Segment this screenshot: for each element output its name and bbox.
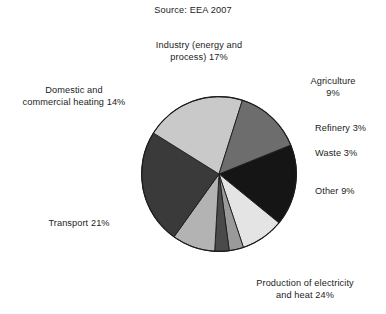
slice-label-production-of-electricity-and-heat: Production of electricity and heat 24%: [229, 278, 381, 301]
pie-chart-graphic: [141, 96, 297, 252]
slice-label-agriculture: Agriculture 9%: [288, 76, 378, 99]
pie-chart-figure: Source: EEA 2007 Industry (energy and pr…: [0, 0, 386, 314]
slice-label-other: Other 9%: [315, 186, 385, 198]
slice-label-refinery: Refinery 3%: [315, 123, 385, 135]
slice-label-transport: Transport 21%: [30, 218, 128, 230]
slice-label-domestic-and-commercial-heating: Domestic and commercial heating 14%: [8, 85, 140, 108]
source-note: Source: EEA 2007: [0, 5, 386, 15]
pie-slice-group: [142, 97, 297, 252]
slice-label-waste: Waste 3%: [315, 148, 385, 160]
slice-label-industry: Industry (energy and process) 17%: [136, 40, 262, 63]
pie-svg: [141, 96, 297, 252]
